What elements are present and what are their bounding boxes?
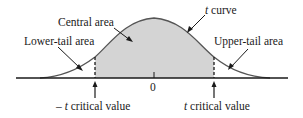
lower-tail-arrow-icon (58, 47, 83, 71)
zero-label: 0 (150, 81, 156, 93)
t-curve-arrow-icon (187, 15, 205, 33)
upper-tail-arrow-icon (228, 49, 248, 70)
t-curve-label: t curve (205, 4, 237, 16)
pos-critical-value-label: t critical value (184, 100, 250, 112)
neg-critical-arrow-icon (93, 81, 98, 98)
lower-tail-area-label: Lower-tail area (24, 35, 94, 47)
central-area-label: Central area (58, 16, 114, 28)
t-distribution-diagram: Central area t curve Lower-tail area Upp… (0, 0, 303, 118)
pos-critical-arrow-icon (212, 81, 217, 98)
neg-critical-value-label: – t critical value (55, 100, 130, 112)
upper-tail-area-label: Upper-tail area (214, 35, 283, 48)
